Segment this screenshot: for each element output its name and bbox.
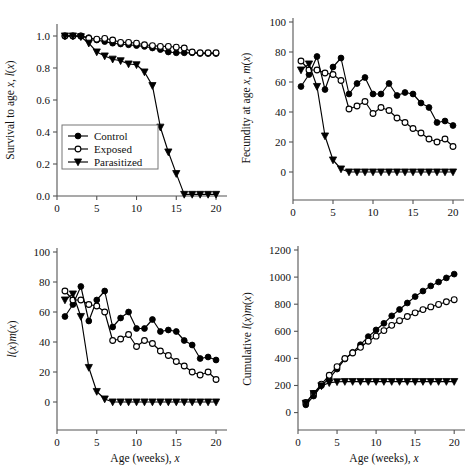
y-tick-label: 40	[275, 106, 287, 118]
marker-open-circle	[78, 297, 84, 303]
marker-open-circle	[373, 333, 379, 339]
marker-filled-circle	[362, 75, 368, 81]
marker-open-circle	[94, 303, 100, 309]
y-tick-label: 0.6	[36, 94, 50, 106]
y-tick-label: 60	[39, 306, 51, 318]
marker-open-circle	[362, 99, 368, 105]
series-layer-survival	[61, 33, 219, 198]
y-ticks-cumulative: 020040060080010001200	[269, 244, 298, 419]
y-axis-label-cumulative: Cumulative l(x)m(x)	[241, 292, 254, 386]
marker-filled-circle	[189, 342, 195, 348]
marker-filled-circle	[442, 118, 448, 124]
marker-filled-circle	[197, 356, 203, 362]
marker-open-circle	[386, 108, 392, 114]
marker-filled-circle	[142, 326, 148, 332]
x-tick-label: 20	[448, 206, 460, 218]
marker-open-circle	[434, 139, 440, 145]
marker-filled-circle	[298, 84, 304, 90]
marker-filled-triangle-down	[321, 133, 328, 140]
panel-fecundity: 020406080100 05101520 Fecundity at age x…	[236, 0, 473, 234]
series-parasitized	[61, 33, 219, 198]
marker-filled-circle	[418, 100, 424, 106]
x-tick-label: 0	[54, 202, 60, 214]
panel-lxmx-svg: 020406080100 05101520 l(x)m(x) Age (week…	[0, 234, 236, 469]
y-axis-label-survival: Survival to age x, l(x)	[4, 60, 17, 160]
marker-filled-circle	[118, 315, 124, 321]
y-tick-label: 80	[39, 276, 51, 288]
x-ticks-fecundity: 05101520	[290, 200, 459, 218]
series-exposed	[303, 297, 457, 406]
series-exposed	[62, 288, 219, 382]
x-tick-label: 10	[371, 436, 383, 448]
marker-filled-circle	[354, 81, 360, 87]
marker-filled-circle	[134, 326, 140, 332]
y-axis-label-fecundity: Fecundity at age x, m(x)	[240, 52, 253, 163]
marker-open-circle	[428, 304, 434, 310]
x-tick-label: 20	[449, 436, 461, 448]
marker-open-circle	[118, 336, 124, 342]
marker-open-circle	[350, 350, 356, 356]
y-tick-label: 0.4	[36, 126, 50, 138]
marker-open-circle	[197, 50, 203, 56]
x-tick-label: 5	[334, 436, 340, 448]
y-tick-label: 800	[275, 298, 292, 310]
marker-filled-circle	[436, 279, 442, 285]
marker-open-circle	[134, 344, 140, 350]
marker-open-circle	[354, 103, 360, 109]
marker-filled-circle	[412, 294, 418, 300]
marker-open-circle	[75, 146, 81, 152]
series-line	[301, 64, 453, 172]
marker-open-circle	[404, 314, 410, 320]
x-tick-label: 5	[94, 436, 100, 448]
x-ticks-lxmx: 05101520	[54, 430, 222, 448]
panel-cumulative-svg: 020040060080010001200 05101520 Cumulativ…	[236, 234, 473, 469]
marker-filled-circle	[373, 327, 379, 333]
marker-filled-triangle-down	[85, 364, 92, 371]
marker-open-circle	[326, 372, 332, 378]
marker-filled-circle	[314, 54, 320, 60]
marker-filled-triangle-down	[326, 380, 333, 387]
x-tick-label: 20	[211, 436, 223, 448]
y-tick-label: 0	[286, 406, 292, 418]
marker-filled-circle	[94, 297, 100, 303]
x-tick-label: 10	[131, 436, 143, 448]
marker-open-circle	[322, 70, 328, 76]
y-tick-label: 100	[34, 246, 51, 258]
legend-label: Parasitized	[94, 156, 143, 168]
marker-filled-circle	[338, 55, 344, 61]
marker-filled-triangle-down	[101, 53, 108, 60]
marker-filled-triangle-down	[297, 67, 304, 74]
marker-open-circle	[126, 332, 132, 338]
marker-filled-circle	[394, 93, 400, 99]
series-layer-cumulative	[302, 271, 458, 408]
marker-open-circle	[338, 78, 344, 84]
marker-filled-circle	[173, 50, 179, 56]
marker-filled-circle	[450, 123, 456, 129]
x-tick-label: 0	[290, 206, 296, 218]
marker-filled-circle	[205, 354, 211, 360]
marker-filled-circle	[102, 288, 108, 294]
marker-filled-triangle-down	[93, 49, 100, 56]
series-control	[303, 271, 457, 408]
marker-open-circle	[102, 36, 108, 42]
marker-open-circle	[150, 341, 156, 347]
marker-open-circle	[150, 43, 156, 49]
marker-open-circle	[142, 338, 148, 344]
marker-filled-triangle-down	[117, 58, 124, 65]
marker-filled-circle	[165, 49, 171, 55]
y-tick-label: 1200	[269, 244, 292, 256]
marker-filled-circle	[443, 275, 449, 281]
marker-open-circle	[389, 322, 395, 328]
x-tick-label: 20	[211, 202, 223, 214]
y-tick-label: 600	[275, 325, 292, 337]
series-layer-lxmx	[61, 284, 219, 406]
marker-open-circle	[62, 288, 68, 294]
y-tick-label: 0	[281, 166, 287, 178]
marker-open-circle	[381, 328, 387, 334]
marker-open-circle	[205, 50, 211, 56]
marker-open-circle	[346, 106, 352, 112]
marker-open-circle	[330, 72, 336, 78]
marker-open-circle	[443, 299, 449, 305]
marker-filled-circle	[62, 314, 68, 320]
marker-filled-triangle-down	[165, 149, 172, 156]
